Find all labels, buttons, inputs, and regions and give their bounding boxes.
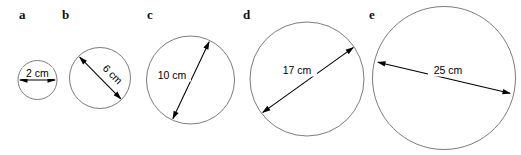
circle-item-a: 2 cma (18, 7, 57, 100)
item-letter-a: a (19, 7, 26, 22)
arrow-head-d-start (262, 106, 270, 113)
item-letter-c: c (147, 7, 153, 22)
measurement-label-d: 17 cm (283, 64, 312, 76)
diameter-line-d (263, 48, 353, 113)
circle-item-c: 10 cmc (147, 7, 235, 124)
diagram-canvas: 2 cma6 cmb10 cmc17 cmd25 cme (0, 0, 521, 155)
arrow-head-e-end (502, 89, 511, 94)
item-letter-d: d (243, 7, 251, 22)
circle-item-d: 17 cmd (243, 7, 364, 136)
arrow-head-c-start (173, 111, 179, 120)
item-letter-b: b (62, 7, 69, 22)
circle-item-e: 25 cme (369, 7, 516, 150)
measurement-label-e: 25 cm (434, 64, 463, 76)
arrow-head-c-end (203, 41, 209, 50)
arrow-head-d-end (346, 47, 354, 54)
item-letter-e: e (369, 7, 375, 22)
arrow-head-e-start (377, 61, 386, 66)
circle-d (250, 22, 364, 136)
circles-diagram: 2 cma6 cmb10 cmc17 cmd25 cme (0, 0, 521, 155)
circle-item-b: 6 cmb (62, 7, 131, 109)
measurement-label-a: 2 cm (26, 67, 49, 79)
measurement-label-c: 10 cm (158, 69, 187, 81)
